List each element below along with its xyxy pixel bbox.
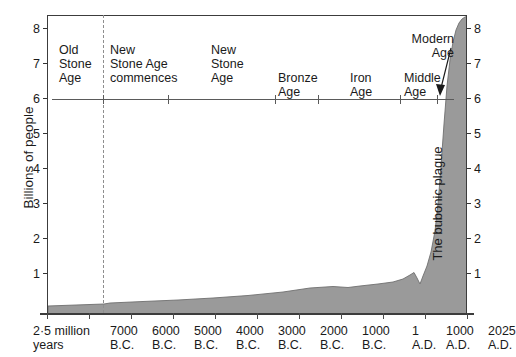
- y-tick-mark-8: [43, 28, 47, 29]
- era-line: Old: [59, 43, 92, 57]
- era-line: Age: [404, 85, 441, 99]
- era-line: Stone: [59, 57, 92, 71]
- y-tick-label-right-1: 1: [474, 267, 496, 281]
- x-tick-label-0: 2·5 million years: [33, 324, 90, 352]
- y-tick-label-7: 7: [18, 57, 40, 71]
- era-line: New: [211, 43, 244, 57]
- x-tick-label-9: 1000 A.D.: [446, 324, 474, 352]
- x-tick-label-3: 5000 B.C.: [194, 324, 222, 352]
- y-tick-mark-right-5: [467, 133, 471, 134]
- y-tick-mark-7: [43, 63, 47, 64]
- x-tick-label-line: 3000: [278, 324, 306, 338]
- era-tick-5: [400, 95, 401, 104]
- x-tick-label-line: 1: [412, 324, 436, 338]
- x-tick-label-7: 1000 B.C.: [362, 324, 390, 352]
- x-tick-label-2: 6000 B.C.: [152, 324, 180, 352]
- y-tick-mark-right-6: [467, 98, 471, 99]
- x-tick-label-4: 4000 B.C.: [236, 324, 264, 352]
- era-label-iron-age: Iron Age: [350, 71, 372, 99]
- y-tick-label-8: 8: [18, 22, 40, 36]
- era-line: Bronze: [278, 71, 318, 85]
- era-tick-2: [168, 95, 169, 104]
- y-tick-mark-right-7: [467, 63, 471, 64]
- y-tick-mark-right-8: [467, 28, 471, 29]
- y-tick-label-right-7: 7: [474, 57, 496, 71]
- x-tick-label-line: 5000: [194, 324, 222, 338]
- x-tick-label-1: 7000 B.C.: [110, 324, 138, 352]
- x-tick-label-line: A.D.: [412, 338, 436, 352]
- era-line: New: [110, 43, 177, 57]
- x-tick-label-line: 2025: [488, 324, 516, 338]
- era-line: Age: [376, 46, 454, 60]
- era-label-new-stone-age: New Stone Age: [211, 43, 244, 86]
- x-tick-mark-6: [299, 313, 300, 319]
- y-tick-label-right-6: 6: [474, 92, 496, 106]
- x-tick-mark-1: [89, 313, 90, 319]
- y-tick-label-6: 6: [18, 92, 40, 106]
- x-tick-mark-8: [383, 313, 384, 319]
- annotation-bubonic-plague: The bubonic plague: [430, 119, 445, 289]
- x-tick-label-5: 3000 B.C.: [278, 324, 306, 352]
- y-tick-mark-right-2: [467, 238, 471, 239]
- y-tick-mark-right-3: [467, 203, 471, 204]
- x-tick-mark-2: [131, 313, 132, 319]
- x-tick-mark-5: [257, 313, 258, 319]
- x-tick-mark-0: [47, 313, 48, 319]
- y-tick-label-4: 4: [18, 162, 40, 176]
- y-tick-label-right-4: 4: [474, 162, 496, 176]
- x-tick-label-line: B.C.: [236, 338, 264, 352]
- era-line: Modern: [376, 32, 454, 46]
- y-tick-mark-1: [43, 273, 47, 274]
- x-tick-label-line: B.C.: [278, 338, 306, 352]
- era-tick-1: [103, 95, 104, 104]
- y-tick-mark-6: [43, 98, 47, 99]
- x-tick-label-line: B.C.: [362, 338, 390, 352]
- x-tick-label-line: B.C.: [110, 338, 138, 352]
- x-tick-label-line: A.D.: [446, 338, 474, 352]
- x-tick-label-line: 1000: [446, 324, 474, 338]
- era-line: Iron: [350, 71, 372, 85]
- x-tick-label-line: 6000: [152, 324, 180, 338]
- y-tick-label-right-8: 8: [474, 22, 496, 36]
- era-label-new-stone-age-commences: New Stone Age commences: [110, 43, 177, 86]
- x-tick-mark-9: [425, 313, 426, 319]
- era-line: Stone: [211, 57, 244, 71]
- y-tick-mark-3: [43, 203, 47, 204]
- era-line: Middle: [404, 71, 441, 85]
- x-tick-mark-10: [467, 313, 468, 319]
- y-tick-mark-right-1: [467, 273, 471, 274]
- y-tick-label-right-2: 2: [474, 232, 496, 246]
- era-line: commences: [110, 71, 177, 85]
- era-line: Age: [59, 71, 92, 85]
- era-label-bronze-age: Bronze Age: [278, 71, 318, 99]
- x-tick-label-line: 1000: [362, 324, 390, 338]
- era-timeline-line: [52, 99, 454, 100]
- era-tick-4: [318, 95, 319, 104]
- y-tick-mark-2: [43, 238, 47, 239]
- y-tick-label-right-3: 3: [474, 197, 496, 211]
- x-tick-label-line: B.C.: [194, 338, 222, 352]
- y-tick-mark-5: [43, 133, 47, 134]
- y-tick-label-1: 1: [18, 267, 40, 281]
- x-tick-label-8: 1 A.D.: [412, 324, 436, 352]
- era-tick-3: [275, 95, 276, 104]
- y-tick-label-2: 2: [18, 232, 40, 246]
- y-tick-mark-4: [43, 168, 47, 169]
- era-line: Stone Age: [110, 57, 177, 71]
- old-new-stone-age-divider: [103, 15, 104, 313]
- era-line: Age: [211, 71, 244, 85]
- x-tick-label-line: 2·5 million: [33, 324, 90, 338]
- y-tick-mark-right-4: [467, 168, 471, 169]
- x-tick-label-10: 2025 A.D.: [488, 324, 516, 352]
- x-tick-label-line: B.C.: [152, 338, 180, 352]
- era-line: Age: [350, 85, 372, 99]
- x-tick-mark-4: [215, 313, 216, 319]
- x-tick-mark-3: [173, 313, 174, 319]
- era-line: Age: [278, 85, 318, 99]
- annotation-modern-age: Modern Age: [376, 32, 454, 60]
- y-tick-label-5: 5: [18, 127, 40, 141]
- y-tick-label-3: 3: [18, 197, 40, 211]
- x-tick-label-line: B.C.: [320, 338, 348, 352]
- x-tick-mark-7: [341, 313, 342, 319]
- y-tick-label-right-5: 5: [474, 127, 496, 141]
